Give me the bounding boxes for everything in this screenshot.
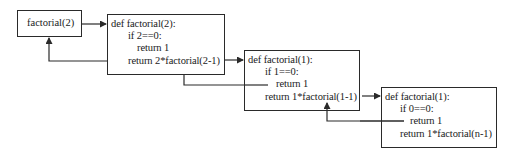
frame-3-header: def factorial(1): (385, 91, 449, 103)
frame-1-condition: if 2==0: (128, 30, 162, 42)
frame-2-condition: if 1==0: (265, 66, 299, 78)
frame-2-base-return: return 1 (274, 78, 308, 90)
frame-1-base-return: return 1 (137, 42, 169, 54)
call-label: factorial(2) (27, 17, 74, 28)
call-box: factorial(2) (17, 10, 82, 37)
frame-box-1: def factorial(2): if 2==0: return 1 retu… (107, 14, 225, 75)
frame-1-recursive-return: return 2*factorial(2-1) (128, 55, 220, 67)
frame-box-3: def factorial(1): if 0==0: return 1 retu… (381, 87, 497, 148)
frame-1-header: def factorial(2): (111, 18, 175, 30)
frame-3-recursive-return: return 1*factorial(n-1) (400, 128, 492, 140)
frame-2-recursive-return: return 1*factorial(1-1) (265, 91, 357, 103)
frame-3-base-return: return 1 (408, 115, 442, 127)
frame-2-header: def factorial(1): (248, 54, 312, 66)
frame-box-2: def factorial(1): if 1==0: return 1 retu… (244, 50, 360, 111)
frame-3-condition: if 0==0: (400, 103, 434, 115)
